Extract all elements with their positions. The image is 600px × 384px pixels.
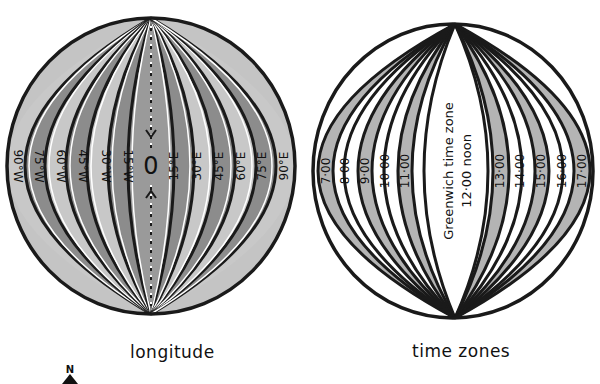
longitude-caption: longitude: [130, 342, 215, 362]
prime-meridian-label: 0: [143, 152, 158, 180]
west-longitude-label: 45°W: [76, 149, 90, 182]
time-zone-label: 11·00: [398, 154, 412, 188]
west-longitude-label: 30°W: [99, 149, 113, 182]
time-zones-globe: 7·008·009·0010·0011·0013·0014·0015·0016·…: [313, 24, 593, 318]
west-longitude-label: 75°W: [32, 149, 46, 182]
globes-diagram: 90°W75°W60°W45°W30°W15°W15°E30°E45°E60°E…: [0, 0, 600, 384]
west-longitude-label: 60°W: [54, 149, 68, 182]
noon-label: 12·00 noon: [459, 134, 474, 208]
time-zone-label: 17·00: [575, 154, 589, 188]
time-zone-label: 8·00: [338, 158, 352, 185]
east-longitude-label: 60°E: [234, 152, 248, 181]
north-arrow-icon: [62, 374, 78, 384]
greenwich-label: Greenwich time zone: [441, 102, 456, 240]
time-zone-label: 13·00: [493, 154, 507, 188]
time-zone-label: 16·00: [555, 154, 569, 188]
time-zones-caption: time zones: [412, 341, 510, 361]
east-longitude-label: 75°E: [255, 152, 269, 181]
west-longitude-label: 90°W: [11, 149, 25, 182]
east-longitude-label: 90°E: [277, 152, 291, 181]
east-longitude-label: 45°E: [212, 152, 226, 181]
time-zone-label: 7·00: [319, 158, 333, 185]
east-longitude-label: 15°E: [167, 152, 181, 181]
time-zone-label: 9·00: [358, 158, 372, 185]
time-zone-label: 15·00: [534, 154, 548, 188]
time-zone-label: 10·00: [378, 154, 392, 188]
time-zone-label: 14·00: [513, 154, 527, 188]
longitude-globe: 90°W75°W60°W45°W30°W15°W15°E30°E45°E60°E…: [7, 18, 295, 314]
north-label: N: [60, 364, 80, 375]
east-longitude-label: 30°E: [190, 152, 204, 181]
west-longitude-label: 15°W: [121, 149, 135, 182]
